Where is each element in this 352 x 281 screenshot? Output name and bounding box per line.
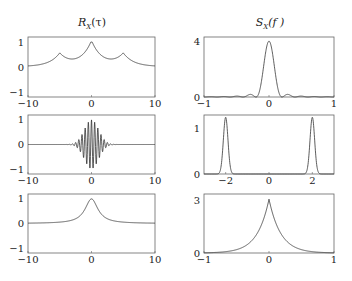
y-tick-label: 1 bbox=[18, 37, 24, 48]
data-line bbox=[204, 41, 334, 97]
panel-row1-right: −10104 bbox=[194, 36, 338, 109]
title-right: SX(f ) bbox=[256, 16, 285, 31]
panel-row1-left: −10010−101 bbox=[9, 37, 161, 110]
y-tick-label: 4 bbox=[194, 36, 200, 47]
data-line bbox=[204, 199, 334, 253]
axes-box bbox=[204, 194, 334, 253]
axes-box bbox=[28, 194, 155, 253]
y-tick-label: 0 bbox=[194, 92, 200, 103]
axes-box bbox=[28, 37, 155, 97]
x-tick-label: 2 bbox=[309, 175, 315, 186]
y-tick-label: 0 bbox=[194, 169, 200, 180]
x-tick-label: 0 bbox=[88, 98, 94, 109]
y-tick-label: 0 bbox=[18, 139, 24, 150]
y-tick-label: −1 bbox=[9, 87, 24, 98]
axes-box bbox=[204, 37, 334, 97]
panel-row2-right: −20201 bbox=[194, 115, 334, 186]
x-tick-label: 10 bbox=[149, 175, 162, 186]
y-tick-label: 0 bbox=[18, 62, 24, 73]
x-tick-label: 10 bbox=[149, 98, 162, 109]
x-tick-label: −10 bbox=[17, 254, 38, 265]
y-tick-label: −1 bbox=[9, 243, 24, 254]
y-tick-label: 3 bbox=[194, 195, 200, 206]
x-tick-label: 10 bbox=[149, 254, 162, 265]
data-line bbox=[28, 199, 155, 223]
y-tick-label: −1 bbox=[9, 164, 24, 175]
x-tick-label: 1 bbox=[331, 254, 337, 265]
data-line bbox=[28, 42, 155, 66]
y-tick-label: 1 bbox=[18, 193, 24, 204]
panel-row3-left: −10010−101 bbox=[9, 193, 161, 265]
x-tick-label: 0 bbox=[88, 175, 94, 186]
panel-row3-right: −10103 bbox=[194, 194, 338, 265]
x-tick-label: −2 bbox=[218, 175, 233, 186]
data-line bbox=[204, 117, 334, 174]
y-tick-label: 0 bbox=[18, 218, 24, 229]
figure: RX(τ) SX(f ) −10010−101−10104−10010−101−… bbox=[0, 0, 352, 281]
x-tick-label: 0 bbox=[266, 175, 272, 186]
y-tick-label: 0 bbox=[194, 248, 200, 259]
x-tick-label: −10 bbox=[17, 175, 38, 186]
data-line bbox=[28, 120, 155, 168]
panel-row2-left: −10010−101 bbox=[9, 114, 161, 186]
title-left: RX(τ) bbox=[77, 16, 106, 31]
y-tick-label: 1 bbox=[194, 123, 200, 134]
x-tick-label: 0 bbox=[266, 98, 272, 109]
y-tick-label: 1 bbox=[18, 114, 24, 125]
x-tick-label: 0 bbox=[266, 254, 272, 265]
axes-box bbox=[204, 115, 334, 174]
x-tick-label: 0 bbox=[88, 254, 94, 265]
x-tick-label: −10 bbox=[17, 98, 38, 109]
x-tick-label: 1 bbox=[331, 98, 337, 109]
